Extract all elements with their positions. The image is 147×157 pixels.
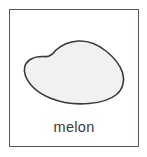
flashcard-image: melon bbox=[0, 0, 147, 157]
card-frame: melon bbox=[9, 9, 139, 147]
caption-label: melon bbox=[10, 114, 138, 140]
melon-illustration bbox=[10, 14, 138, 114]
melon-blob-icon bbox=[10, 14, 138, 114]
